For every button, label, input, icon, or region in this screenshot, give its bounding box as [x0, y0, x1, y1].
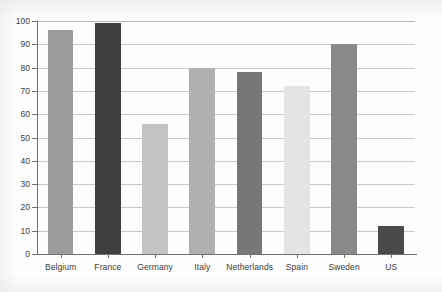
y-tick-10: [32, 231, 37, 232]
y-tick-label-90: 90: [0, 39, 30, 49]
x-tick-belgium: [61, 254, 62, 258]
y-tick-label-50: 50: [0, 132, 30, 142]
y-tick-0: [32, 254, 37, 255]
x-axis-line: [37, 254, 417, 255]
y-tick-label-40: 40: [0, 155, 30, 165]
x-tick-netherlands: [250, 254, 251, 258]
x-tick-label-spain: Spain: [286, 262, 308, 272]
y-axis-tick-labels: 0102030405060708090100: [0, 21, 442, 254]
y-tick-label-80: 80: [0, 62, 30, 72]
y-tick-30: [32, 184, 37, 185]
y-tick-label-60: 60: [0, 109, 30, 119]
x-tick-label-germany: Germany: [137, 262, 173, 272]
x-tick-label-netherlands: Netherlands: [226, 262, 273, 272]
y-tick-20: [32, 207, 37, 208]
bar-chart: 0102030405060708090100 BelgiumFranceGerm…: [0, 0, 442, 292]
x-tick-label-italy: Italy: [194, 262, 210, 272]
y-tick-label-20: 20: [0, 202, 30, 212]
x-tick-germany: [155, 254, 156, 258]
y-tick-40: [32, 161, 37, 162]
y-tick-label-30: 30: [0, 179, 30, 189]
y-tick-label-0: 0: [0, 249, 30, 259]
x-tick-france: [108, 254, 109, 258]
y-tick-label-10: 10: [0, 225, 30, 235]
x-tick-sweden: [344, 254, 345, 258]
y-tick-50: [32, 138, 37, 139]
x-tick-label-sweden: Sweden: [328, 262, 359, 272]
x-tick-label-belgium: Belgium: [45, 262, 76, 272]
y-tick-80: [32, 68, 37, 69]
y-tick-label-100: 100: [0, 16, 30, 26]
y-tick-100: [32, 21, 37, 22]
y-tick-60: [32, 114, 37, 115]
x-tick-spain: [297, 254, 298, 258]
y-tick-70: [32, 91, 37, 92]
x-tick-label-france: France: [94, 262, 121, 272]
x-tick-us: [391, 254, 392, 258]
x-tick-italy: [202, 254, 203, 258]
y-tick-label-70: 70: [0, 85, 30, 95]
x-tick-label-us: US: [385, 262, 397, 272]
y-tick-90: [32, 44, 37, 45]
